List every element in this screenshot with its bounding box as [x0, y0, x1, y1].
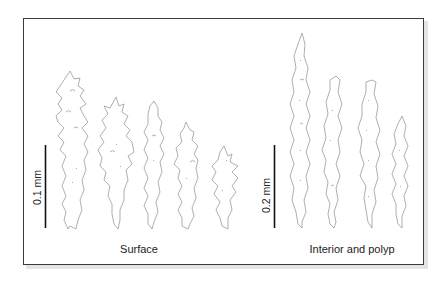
interior-sclerite-3-pits: [366, 100, 369, 197]
surface-sclerite-1: [56, 71, 88, 229]
group-label-surface: Surface: [120, 243, 158, 255]
surface-sclerite-2-pits: [110, 144, 121, 167]
interior-sclerite-3: [358, 80, 380, 228]
interior-sclerite-1-pits: [299, 60, 304, 181]
surface-sclerite-3-pits: [152, 135, 156, 161]
interior-sclerite-2: [322, 76, 342, 228]
surface-sclerite-4: [174, 122, 198, 229]
interior-sclerite-1: [290, 33, 310, 228]
scale-label-surface: 0.1 mm: [31, 170, 43, 205]
interior-sclerite-4: [392, 116, 408, 228]
surface-sclerite-2: [98, 97, 134, 229]
surface-sclerite-3: [144, 101, 164, 229]
surface-sclerite-5: [212, 146, 238, 229]
group-label-interior: Interior and polyp: [310, 243, 395, 255]
surface-sclerite-4-pits: [186, 161, 195, 180]
surface-sclerite-1-pits: [66, 90, 78, 184]
interior-sclerite-2-pits: [330, 110, 334, 186]
interior-sclerite-4-pits: [399, 150, 401, 187]
surface-sclerite-5-pits: [222, 160, 227, 191]
scale-label-interior: 0.2 mm: [260, 178, 272, 213]
